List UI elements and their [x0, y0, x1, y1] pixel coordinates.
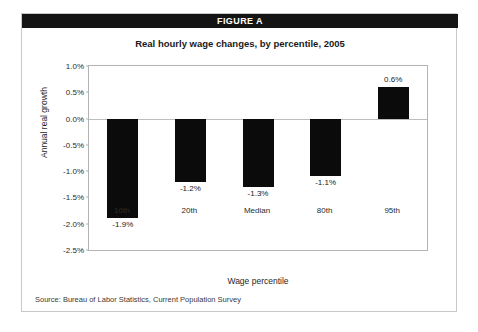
x-tick-label: 80th	[317, 206, 333, 215]
y-tick-label: -0.5%	[63, 140, 84, 149]
y-tick-mark	[86, 144, 89, 145]
bar-value-label: -1.2%	[180, 184, 201, 193]
y-tick-label: 0.0%	[66, 114, 84, 123]
bar	[175, 119, 206, 182]
y-tick-label: 1.0%	[66, 62, 84, 71]
y-tick-mark	[86, 250, 89, 251]
chart-title: Real hourly wage changes, by percentile,…	[22, 38, 458, 49]
figure-banner-label: FIGURE A	[217, 16, 263, 26]
bar-value-label: -1.3%	[248, 189, 269, 198]
bar-value-label: 0.6%	[384, 75, 402, 84]
y-axis-title: Annual real growth	[39, 87, 49, 158]
bar-value-label: -1.1%	[315, 178, 336, 187]
x-axis-title: Wage percentile	[88, 276, 428, 286]
y-tick-mark	[86, 66, 89, 67]
y-tick-label: -2.5%	[63, 246, 84, 255]
figure-card: FIGURE A Real hourly wage changes, by pe…	[21, 13, 457, 312]
y-tick-mark	[86, 171, 89, 172]
y-tick-label: 0.5%	[66, 88, 84, 97]
x-tick-label: 10th	[114, 206, 130, 215]
y-tick-label: -1.0%	[63, 167, 84, 176]
plot-area: 1.0%0.5%0.0%-0.5%-1.0%-1.5%-2.0%-2.5% -1…	[88, 65, 428, 251]
y-tick-mark	[86, 118, 89, 119]
y-tick-mark	[86, 197, 89, 198]
y-tick-label: -2.0%	[63, 219, 84, 228]
figure-banner: FIGURE A	[22, 14, 458, 28]
source-note: Source: Bureau of Labor Statistics, Curr…	[35, 295, 241, 304]
x-tick-label: Median	[244, 206, 270, 215]
y-tick-mark	[86, 92, 89, 93]
bar	[243, 119, 274, 187]
bar	[378, 87, 409, 119]
x-tick-label: 95th	[384, 206, 400, 215]
x-tick-label: 20th	[182, 206, 198, 215]
bar	[310, 119, 341, 177]
y-tick-mark	[86, 223, 89, 224]
y-tick-label: -1.5%	[63, 193, 84, 202]
bar	[107, 119, 138, 219]
bar-value-label: -1.9%	[112, 220, 133, 229]
